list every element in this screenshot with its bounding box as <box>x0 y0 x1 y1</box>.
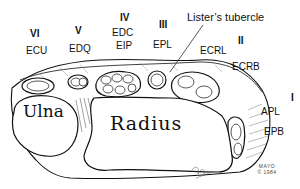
compartment-numeral-iv: IV <box>120 13 129 23</box>
tendon-label-epl: EPL <box>153 40 172 50</box>
compartment-numeral-vi: VI <box>30 29 39 39</box>
compartment-numeral-iii: III <box>159 20 167 30</box>
tendon-label-edq: EDQ <box>69 44 91 54</box>
credit: MAYO © 1984 <box>252 163 282 175</box>
ulna-label: Ulna <box>23 101 64 121</box>
compartment-numeral-v: V <box>75 26 82 36</box>
anatomy-diagram: VI V IV III II I ECU EDQ EDC EIP EPL ECR… <box>0 0 300 189</box>
compartment-numeral-ii: II <box>238 36 244 46</box>
credit-line-2: © 1984 <box>252 169 282 175</box>
compartment-numeral-i: I <box>291 93 294 103</box>
tendon-label-ecrb: ECRB <box>232 62 260 72</box>
tendon-label-apl: APL <box>261 107 280 117</box>
tendon-label-ecu: ECU <box>26 46 47 56</box>
radius-label: Radius <box>110 112 182 134</box>
wrist-cross-section-drawing <box>0 0 300 189</box>
tendon-label-edc: EDC <box>112 28 133 38</box>
tendon-label-ecrl: ECRL <box>200 46 227 56</box>
tendon-label-eip: EIP <box>116 41 132 51</box>
listers-tubercle-label: Lister’s tubercle <box>187 12 264 22</box>
tendon-label-epb: EPB <box>264 127 284 137</box>
